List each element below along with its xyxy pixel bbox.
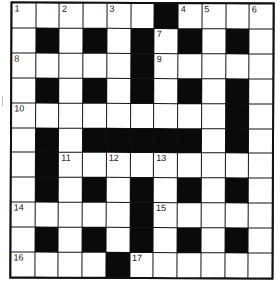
clue-number: 17 bbox=[132, 254, 142, 263]
grid-cell[interactable] bbox=[226, 54, 249, 78]
grid-cell[interactable] bbox=[202, 104, 225, 128]
grid-cell[interactable] bbox=[60, 29, 83, 53]
grid-cell[interactable]: 2 bbox=[60, 4, 83, 28]
block-cell bbox=[131, 79, 154, 103]
grid-cell[interactable]: 14 bbox=[12, 203, 35, 227]
grid-cell[interactable] bbox=[35, 203, 58, 227]
grid-cell[interactable] bbox=[107, 79, 130, 103]
grid-cell[interactable] bbox=[131, 104, 154, 128]
grid-cell[interactable] bbox=[249, 204, 272, 228]
grid-cell[interactable] bbox=[12, 28, 35, 52]
block-cell bbox=[178, 29, 201, 53]
block-cell bbox=[106, 253, 129, 277]
grid-cell[interactable]: 5 bbox=[202, 4, 225, 28]
grid-cell[interactable] bbox=[60, 78, 83, 102]
grid-cell[interactable] bbox=[178, 203, 201, 227]
grid-cell[interactable]: 8 bbox=[12, 53, 35, 77]
grid-cell[interactable] bbox=[178, 154, 201, 178]
grid-cell[interactable]: 12 bbox=[107, 153, 130, 177]
grid-cell[interactable] bbox=[131, 4, 154, 28]
grid-cell[interactable] bbox=[225, 154, 248, 178]
grid-cell[interactable] bbox=[202, 29, 225, 53]
grid-cell[interactable] bbox=[59, 253, 82, 277]
grid-cell[interactable]: 6 bbox=[250, 4, 273, 28]
grid-cell[interactable] bbox=[154, 228, 177, 252]
grid-cell[interactable]: 3 bbox=[107, 4, 130, 28]
grid-cell[interactable]: 10 bbox=[12, 103, 35, 127]
grid-cell[interactable] bbox=[84, 4, 107, 28]
block-cell bbox=[83, 228, 106, 252]
grid-cell[interactable] bbox=[226, 4, 249, 28]
grid-cell[interactable] bbox=[35, 253, 58, 277]
grid-cell[interactable] bbox=[83, 103, 106, 127]
grid-cell[interactable] bbox=[225, 204, 248, 228]
grid-cell[interactable] bbox=[107, 54, 130, 78]
crossword-grid: 1234567891011121314151617 bbox=[9, 1, 274, 279]
grid-cell[interactable] bbox=[83, 54, 106, 78]
grid-cell[interactable] bbox=[36, 103, 59, 127]
grid-cell[interactable] bbox=[130, 153, 153, 177]
grid-cell[interactable] bbox=[107, 178, 130, 202]
grid-cell[interactable] bbox=[201, 228, 224, 252]
grid-cell[interactable] bbox=[83, 253, 106, 277]
grid-cell[interactable] bbox=[59, 203, 82, 227]
grid-cell[interactable]: 17 bbox=[130, 253, 153, 277]
grid-cell[interactable] bbox=[60, 53, 83, 77]
grid-cell[interactable] bbox=[249, 129, 272, 153]
grid-cell[interactable] bbox=[107, 103, 130, 127]
grid-cell[interactable]: 16 bbox=[11, 253, 34, 277]
grid-cell[interactable] bbox=[202, 179, 225, 203]
grid-cell[interactable] bbox=[36, 4, 59, 28]
grid-cell[interactable] bbox=[249, 154, 272, 178]
grid-cell[interactable]: 4 bbox=[179, 4, 202, 28]
grid-cell[interactable] bbox=[154, 104, 177, 128]
grid-cell[interactable]: 7 bbox=[155, 29, 178, 53]
grid-cell[interactable]: 9 bbox=[155, 54, 178, 78]
grid-cell[interactable] bbox=[202, 154, 225, 178]
grid-cell[interactable] bbox=[201, 204, 224, 228]
grid-cell[interactable] bbox=[106, 228, 129, 252]
grid-cell[interactable] bbox=[249, 104, 272, 128]
grid-cell[interactable] bbox=[177, 253, 200, 277]
grid-cell[interactable]: 1 bbox=[12, 3, 35, 27]
grid-cell[interactable] bbox=[83, 203, 106, 227]
grid-cell[interactable] bbox=[12, 228, 35, 252]
grid-cell[interactable] bbox=[12, 178, 35, 202]
grid-cell[interactable]: 11 bbox=[59, 153, 82, 177]
grid-cell[interactable] bbox=[250, 29, 273, 53]
grid-cell[interactable] bbox=[178, 54, 201, 78]
block-cell bbox=[131, 54, 154, 78]
grid-cell[interactable] bbox=[107, 29, 130, 53]
grid-cell[interactable] bbox=[155, 79, 178, 103]
grid-cell[interactable] bbox=[12, 153, 35, 177]
grid-cell[interactable] bbox=[12, 128, 35, 152]
grid-cell[interactable] bbox=[59, 178, 82, 202]
grid-cell[interactable] bbox=[249, 79, 272, 103]
grid-cell[interactable] bbox=[202, 129, 225, 153]
grid-cell[interactable] bbox=[225, 253, 248, 277]
clue-number: 2 bbox=[62, 5, 67, 14]
grid-cell[interactable] bbox=[154, 253, 177, 277]
block-cell bbox=[178, 179, 201, 203]
grid-cell[interactable] bbox=[249, 179, 272, 203]
block-cell bbox=[83, 128, 106, 152]
block-cell bbox=[84, 29, 107, 53]
grid-cell[interactable] bbox=[154, 178, 177, 202]
grid-cell[interactable] bbox=[60, 103, 83, 127]
grid-cell[interactable] bbox=[249, 254, 272, 278]
grid-cell[interactable] bbox=[107, 203, 130, 227]
grid-cell[interactable] bbox=[12, 78, 35, 102]
grid-cell[interactable] bbox=[36, 53, 59, 77]
grid-cell[interactable] bbox=[249, 229, 272, 253]
grid-cell[interactable] bbox=[201, 253, 224, 277]
grid-cell[interactable] bbox=[202, 79, 225, 103]
grid-cell[interactable]: 13 bbox=[154, 154, 177, 178]
grid-cell[interactable] bbox=[59, 228, 82, 252]
grid-cell[interactable] bbox=[250, 54, 273, 78]
grid-cell[interactable] bbox=[178, 104, 201, 128]
grid-cell[interactable] bbox=[83, 153, 106, 177]
grid-cell[interactable] bbox=[59, 128, 82, 152]
grid-cell[interactable] bbox=[202, 54, 225, 78]
block-cell bbox=[178, 129, 201, 153]
grid-cell[interactable]: 15 bbox=[154, 203, 177, 227]
